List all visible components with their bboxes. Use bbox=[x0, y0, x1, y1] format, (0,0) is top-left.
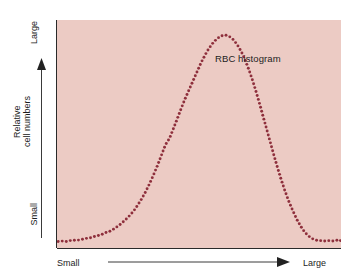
curve-dot bbox=[147, 184, 150, 187]
curve-dot bbox=[122, 220, 125, 223]
rbc-histogram-figure: RBC histogram Large Small Relative cell … bbox=[0, 0, 351, 278]
curve-dot bbox=[179, 108, 182, 111]
curve-dot bbox=[201, 59, 204, 62]
curve-dot bbox=[265, 126, 268, 129]
curve-dot bbox=[255, 90, 258, 93]
plot-annotation-label: RBC histogram bbox=[215, 53, 281, 64]
curve-dot bbox=[133, 208, 136, 211]
curve-dot bbox=[69, 239, 72, 242]
curve-dot bbox=[331, 240, 334, 243]
curve-dot bbox=[253, 86, 256, 89]
curve-dot bbox=[187, 89, 190, 92]
curve-dot bbox=[282, 185, 285, 188]
curve-dot bbox=[214, 39, 217, 42]
curve-dot bbox=[302, 229, 305, 232]
curve-dot bbox=[261, 114, 264, 117]
curve-dot bbox=[335, 239, 338, 242]
curve-dot bbox=[157, 161, 160, 164]
curve-dot bbox=[115, 225, 118, 228]
curve-dot bbox=[271, 149, 274, 152]
curve-dot bbox=[286, 196, 289, 199]
curve-dot bbox=[251, 78, 254, 81]
curve-dot bbox=[184, 97, 187, 100]
curve-dot bbox=[248, 71, 251, 74]
curve-dot bbox=[165, 142, 168, 145]
curve-dot bbox=[278, 173, 281, 176]
curve-dot bbox=[146, 187, 149, 190]
curve-dot bbox=[319, 239, 322, 242]
plot-area: RBC histogram bbox=[57, 20, 341, 248]
curve-dot bbox=[199, 63, 202, 66]
curve-dot bbox=[101, 233, 104, 236]
curve-dot bbox=[283, 189, 286, 192]
curve-dot bbox=[228, 35, 231, 38]
curve-dot bbox=[327, 239, 330, 242]
curve-dot bbox=[292, 211, 295, 214]
y-axis-title-text: Relative cell numbers bbox=[12, 96, 32, 147]
curve-dot bbox=[89, 236, 92, 239]
curve-dot bbox=[181, 104, 184, 107]
curve-dot bbox=[93, 235, 96, 238]
curve-dot bbox=[172, 127, 175, 130]
curve-dot bbox=[196, 71, 199, 74]
curve-dot bbox=[279, 177, 282, 180]
curve-dot bbox=[262, 118, 265, 121]
curve-dot bbox=[260, 110, 263, 113]
curve-dot bbox=[273, 157, 276, 160]
curve-dot bbox=[169, 135, 172, 138]
curve-dot bbox=[232, 38, 235, 41]
curve-dot bbox=[276, 165, 279, 168]
curve-dot bbox=[207, 49, 210, 52]
curve-dot bbox=[239, 48, 242, 51]
curve-dot bbox=[159, 157, 162, 160]
curve-dot bbox=[270, 145, 273, 148]
curve-dot bbox=[300, 226, 303, 229]
x-axis-line bbox=[57, 248, 341, 249]
curve-dot bbox=[272, 153, 275, 156]
curve-dot bbox=[203, 56, 206, 59]
curve-dot bbox=[149, 180, 152, 183]
curve-dot bbox=[256, 94, 259, 97]
curve-dot bbox=[73, 239, 76, 242]
curve-dot bbox=[221, 34, 224, 37]
curve-dot bbox=[339, 239, 341, 242]
curve-dot bbox=[234, 41, 237, 44]
curve-dot bbox=[163, 146, 166, 149]
curve-dot bbox=[192, 78, 195, 81]
curve-dot bbox=[247, 67, 250, 70]
curve-dot bbox=[125, 218, 128, 221]
curve-dot bbox=[296, 219, 299, 222]
x-axis-tick-large: Large bbox=[303, 258, 326, 268]
curve-dot bbox=[285, 192, 288, 195]
x-axis-tick-small: Small bbox=[57, 258, 80, 268]
curve-dot bbox=[186, 93, 189, 96]
curve-dot bbox=[85, 237, 88, 240]
curve-dot bbox=[182, 101, 185, 104]
curve-dot bbox=[77, 239, 80, 242]
curve-dot bbox=[97, 234, 100, 237]
curve-dot bbox=[61, 240, 64, 243]
curve-dot bbox=[175, 120, 178, 123]
x-axis-direction-arrow-icon bbox=[108, 256, 290, 268]
curve-dot bbox=[281, 181, 284, 184]
curve-dot bbox=[138, 202, 141, 205]
curve-dot-markers bbox=[57, 34, 341, 243]
curve-dot bbox=[119, 223, 122, 226]
curve-dot bbox=[211, 42, 214, 45]
curve-dot bbox=[258, 102, 261, 105]
curve-dot bbox=[275, 161, 278, 164]
curve-dot bbox=[289, 204, 292, 207]
curve-dot bbox=[81, 238, 84, 241]
curve-dot bbox=[130, 212, 133, 215]
curve-dot bbox=[259, 106, 262, 109]
curve-dot bbox=[160, 153, 163, 156]
curve-dot bbox=[269, 141, 272, 144]
curve-dot bbox=[287, 200, 290, 203]
curve-dot bbox=[178, 112, 181, 115]
curve-dot bbox=[277, 169, 280, 172]
y-axis-tick-large: Large bbox=[30, 21, 39, 44]
curve-dot bbox=[266, 130, 269, 133]
curve-dot bbox=[112, 228, 115, 231]
curve-dot bbox=[142, 195, 145, 198]
curve-dot bbox=[140, 198, 143, 201]
